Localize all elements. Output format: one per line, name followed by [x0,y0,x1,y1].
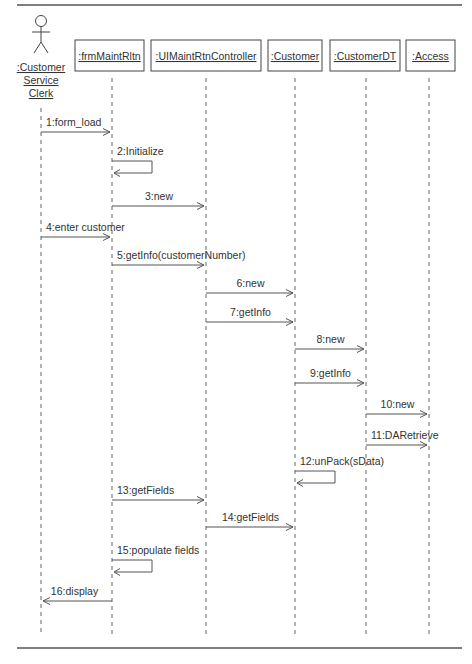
object-label: :CustomerDT [334,50,397,62]
actor-label-line-1: :Customer [17,61,66,73]
message-label: 1:form_load [46,116,102,128]
message-15: 15:populate fields [112,544,199,576]
message-7: 7:getInfo [206,306,293,326]
message-9: 9:getInfo [295,367,364,387]
object-label: :UIMaintRtnController [156,50,257,62]
message-label: 11:DARetrieve [371,429,439,441]
objects-layer: :frmMaintRltn:UIMaintRtnController:Custo… [75,40,455,71]
message-label: 16:display [51,585,99,597]
message-label: 5:getInfo(customerNumber) [117,249,245,261]
message-label: 13:getFields [117,484,174,496]
actor-label-line-2: Service [23,74,58,86]
message-label: 12:unPack(sData) [300,455,384,467]
message-label: 10:new [381,398,415,410]
messages-layer: 1:form_load2:Initialize3:new4:enter cust… [41,116,439,605]
message-label: 7:getInfo [230,306,271,318]
message-label: 2:Initialize [117,145,164,157]
object-ctrl: :UIMaintRtnController [151,40,261,71]
actor-customer-service-clerk: :Customer Service Clerk [17,16,66,100]
message-3: 3:new [112,190,204,210]
message-label: 3:new [145,190,173,202]
object-custdt: :CustomerDT [330,40,400,71]
actor-label-line-3: Clerk [29,87,54,99]
object-frm: :frmMaintRltn [75,40,144,71]
message-14: 14:getFields [206,511,293,531]
stick-figure-icon [32,16,50,54]
message-8: 8:new [295,333,364,353]
message-16: 16:display [43,585,112,605]
message-11: 11:DARetrieve [366,429,439,449]
message-label: 9:getInfo [310,367,351,379]
object-cust: :Customer [268,40,322,71]
object-label: :Access [412,50,449,62]
message-label: 6:new [236,277,264,289]
lifelines-layer [41,78,429,634]
message-13: 13:getFields [112,484,204,504]
message-label: 15:populate fields [117,544,199,556]
message-2: 2:Initialize [112,145,164,177]
message-12: 12:unPack(sData) [295,455,384,487]
object-label: :Customer [271,50,320,62]
object-label: :frmMaintRltn [78,50,141,62]
message-5: 5:getInfo(customerNumber) [112,249,245,269]
message-4: 4:enter customer [41,221,125,241]
sequence-diagram: :Customer Service Clerk :frmMaintRltn:UI… [0,0,472,664]
object-access: :Access [406,40,455,71]
message-label: 4:enter customer [46,221,125,233]
message-6: 6:new [206,277,293,297]
message-label: 8:new [316,333,344,345]
message-label: 14:getFields [222,511,279,523]
message-1: 1:form_load [41,116,110,136]
message-10: 10:new [366,398,427,418]
